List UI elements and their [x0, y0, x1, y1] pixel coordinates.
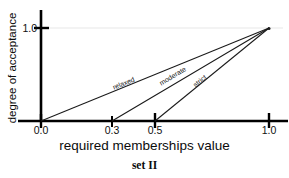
x-tick-label-1.0: 1.0 — [262, 124, 277, 136]
x-tick-label-0.0: 0.0 — [34, 124, 49, 136]
x-axis-title: required memberships value — [0, 138, 289, 153]
figure-caption: set II — [0, 159, 289, 171]
series-line-relaxed — [41, 28, 269, 121]
y-axis-title: degree of acceptance — [6, 9, 18, 127]
series-line-moderate — [112, 28, 269, 121]
x-tick-label-0.5: 0.5 — [148, 124, 163, 136]
chart-figure: 1.0 0.0 0.3 0.5 1.0 relaxed moderate str… — [0, 0, 289, 178]
y-tick-label-1.0: 1.0 — [22, 22, 37, 34]
x-tick-label-0.3: 0.3 — [105, 124, 120, 136]
convergence-point — [268, 27, 271, 30]
